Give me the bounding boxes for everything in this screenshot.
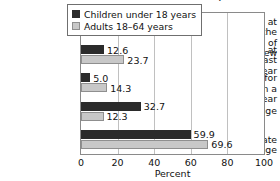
x-tick-label: 20 (112, 157, 124, 168)
chart-figure: ...insurance in the United States, 2007 … (0, 0, 280, 181)
bar (81, 73, 90, 82)
bar-group: 12.623.7 (81, 41, 264, 69)
x-tick-label: 0 (78, 157, 84, 168)
chart-title: ...insurance in the United States, 2007 (72, 0, 247, 2)
bar-value-label: 14.3 (110, 84, 131, 93)
x-tick-label: 60 (185, 157, 197, 168)
bar-group: 59.969.6 (81, 126, 264, 154)
x-tick-label: 100 (255, 157, 273, 168)
bar (81, 55, 124, 64)
legend-label: Adults 18–64 years (84, 21, 173, 32)
chart-legend: Children under 18 yearsAdults 18–64 year… (67, 4, 202, 36)
bar-value-label: 59.9 (194, 130, 215, 139)
bar (81, 140, 208, 149)
legend-item: Children under 18 years (72, 8, 196, 20)
bar-value-label: 5.0 (93, 74, 108, 83)
bar (81, 112, 104, 121)
x-tick-label: 40 (148, 157, 160, 168)
legend-item: Adults 18–64 years (72, 20, 196, 32)
legend-swatch-icon (72, 10, 80, 18)
bar-value-label: 12.6 (107, 46, 128, 55)
bar-value-label: 12.3 (107, 112, 128, 121)
bar-value-label: 32.7 (144, 102, 165, 111)
legend-label: Children under 18 years (84, 9, 196, 20)
bar-group: 5.014.3 (81, 69, 264, 97)
bar (81, 45, 104, 54)
bar (81, 102, 141, 111)
bar-value-label: 69.6 (211, 140, 232, 149)
bar-group: 32.712.3 (81, 98, 264, 126)
bar (81, 83, 107, 92)
x-axis-title: Percent (80, 168, 265, 179)
bar-value-label: 23.7 (127, 56, 148, 65)
x-tick-label: 80 (221, 157, 233, 168)
legend-swatch-icon (72, 22, 80, 30)
bar (81, 130, 191, 139)
